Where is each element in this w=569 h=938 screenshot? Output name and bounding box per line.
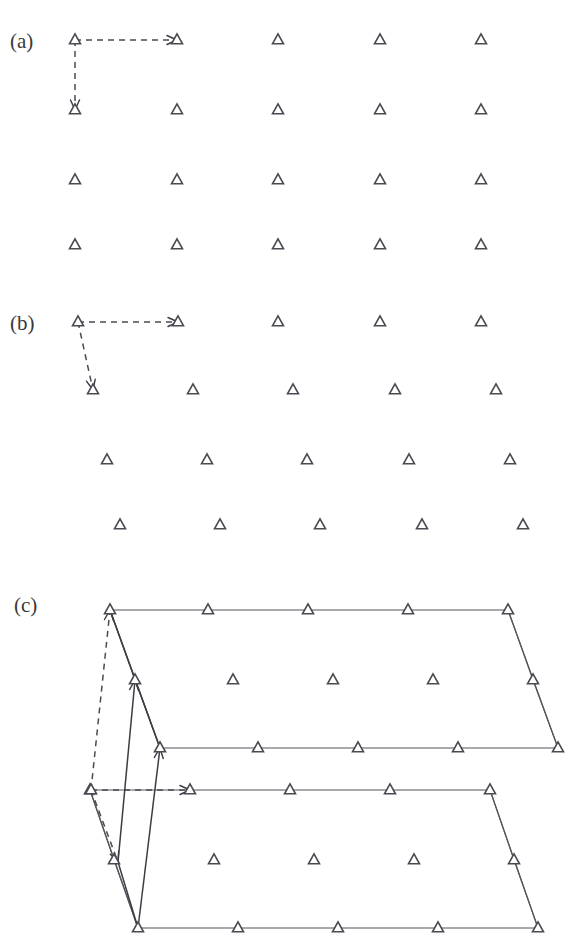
lattice-point-triangle: [303, 604, 314, 614]
lattice-point-triangle: [403, 604, 414, 614]
edge-solid-bottom-left-diagonal: [118, 862, 138, 928]
lattice-point-triangle: [385, 784, 396, 794]
lattice-point-triangle: [485, 784, 496, 794]
lattice-point-triangle: [315, 519, 326, 529]
lattice-point-triangle: [233, 922, 244, 932]
lattice-point-triangle: [285, 784, 296, 794]
lattice-point-triangle: [70, 239, 81, 249]
lattice-point-triangle: [70, 174, 81, 184]
lattice-point-triangle: [273, 316, 284, 326]
lattice-point-triangle: [476, 316, 487, 326]
panel-label-b: (b): [10, 311, 35, 335]
lattice-point-triangle: [353, 742, 364, 752]
lattice-point-triangle: [273, 104, 284, 114]
lattice-point-layer: [70, 34, 564, 932]
lattice-point-triangle: [228, 674, 239, 684]
lattice-point-triangle: [417, 519, 428, 529]
lattice-point-triangle: [453, 742, 464, 752]
lattice-point-triangle: [375, 174, 386, 184]
lattice-point-triangle: [476, 104, 487, 114]
lattice-edge-layer: [90, 610, 558, 928]
lattice-point-triangle: [375, 34, 386, 44]
lattice-point-triangle: [375, 239, 386, 249]
lattice-point-triangle: [70, 34, 81, 44]
lower-plane-right-upper: [490, 790, 514, 860]
lattice-point-triangle: [105, 604, 116, 614]
lattice-point-triangle: [476, 34, 487, 44]
lattice-point-triangle: [404, 454, 415, 464]
figure-canvas: (a)(b)(c): [0, 0, 569, 938]
lattice-point-triangle: [533, 922, 544, 932]
lattice-point-triangle: [333, 922, 344, 932]
lattice-point-triangle: [288, 384, 299, 394]
panel-label-c: (c): [14, 593, 37, 617]
lattice-point-triangle: [476, 239, 487, 249]
lattice-point-triangle: [476, 174, 487, 184]
lattice-point-triangle: [528, 674, 539, 684]
lattice-point-triangle: [202, 454, 213, 464]
upper-plane-right-upper: [508, 610, 533, 680]
lattice-point-triangle: [433, 922, 444, 932]
lattice-point-triangle: [328, 674, 339, 684]
lower-plane-right-lower: [514, 860, 538, 928]
lattice-point-triangle: [409, 854, 420, 864]
lattice-point-triangle: [428, 674, 439, 684]
lattice-point-triangle: [253, 742, 264, 752]
lattice-point-triangle: [509, 854, 520, 864]
translation-vector-solid-upper: [118, 680, 135, 862]
lattice-point-triangle: [172, 174, 183, 184]
lattice-point-triangle: [203, 604, 214, 614]
lattice-point-triangle: [273, 174, 284, 184]
lattice-point-triangle: [309, 854, 320, 864]
lattice-point-triangle: [302, 454, 313, 464]
lattice-point-triangle: [155, 742, 166, 752]
lattice-point-triangle: [273, 34, 284, 44]
lattice-point-triangle: [102, 454, 113, 464]
lattice-point-triangle: [273, 239, 284, 249]
lattice-point-triangle: [70, 104, 81, 114]
lattice-point-triangle: [390, 384, 401, 394]
lattice-point-triangle: [115, 519, 126, 529]
panel-label-layer: (a)(b)(c): [10, 29, 37, 617]
lattice-point-triangle: [188, 384, 199, 394]
lattice-point-triangle: [375, 316, 386, 326]
lattice-point-triangle: [503, 604, 514, 614]
lattice-point-triangle: [130, 674, 141, 684]
lattice-point-triangle: [375, 104, 386, 114]
lattice-point-triangle: [553, 742, 564, 752]
primitive-vector-a2: [91, 790, 118, 862]
lattice-point-triangle: [215, 519, 226, 529]
lattice-point-triangle: [518, 519, 529, 529]
upper-plane-right-lower: [533, 680, 558, 748]
lattice-point-triangle: [505, 454, 516, 464]
lattice-point-triangle: [133, 922, 144, 932]
lattice-point-triangle: [73, 316, 84, 326]
lattice-point-triangle: [172, 239, 183, 249]
lattice-point-triangle: [491, 384, 502, 394]
primitive-vector-a2: [78, 322, 93, 390]
primitive-vector-a3: [91, 610, 110, 790]
lower-plane-left-upper: [90, 790, 114, 860]
panel-label-a: (a): [10, 29, 33, 53]
lattice-point-triangle: [209, 854, 220, 864]
lattice-figure: (a)(b)(c): [0, 0, 569, 938]
translation-vector-solid-lower: [138, 748, 160, 928]
lattice-point-triangle: [172, 104, 183, 114]
